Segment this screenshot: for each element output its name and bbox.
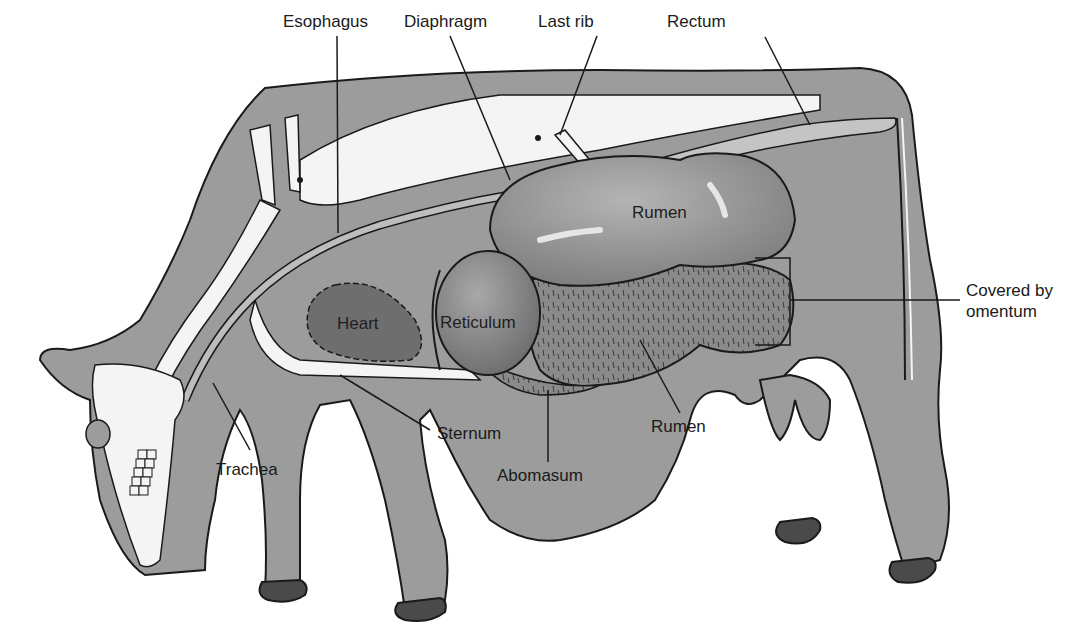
label-heart: Heart: [337, 314, 379, 334]
label-esophagus: Esophagus: [283, 12, 368, 32]
label-rectum: Rectum: [667, 12, 726, 32]
label-abomasum: Abomasum: [497, 466, 583, 486]
label-rumen-upper: Rumen: [632, 203, 687, 223]
hooves: [260, 518, 936, 621]
label-diaphragm: Diaphragm: [404, 12, 487, 32]
label-trachea: Trachea: [216, 460, 278, 480]
label-sternum: Sternum: [437, 424, 501, 444]
label-reticulum: Reticulum: [440, 313, 516, 333]
label-last-rib: Last rib: [538, 12, 594, 32]
cow-anatomy-figure: [0, 0, 1091, 639]
label-covered-by-omentum: Covered by omentum: [966, 280, 1053, 322]
label-rumen-lower: Rumen: [651, 417, 706, 437]
